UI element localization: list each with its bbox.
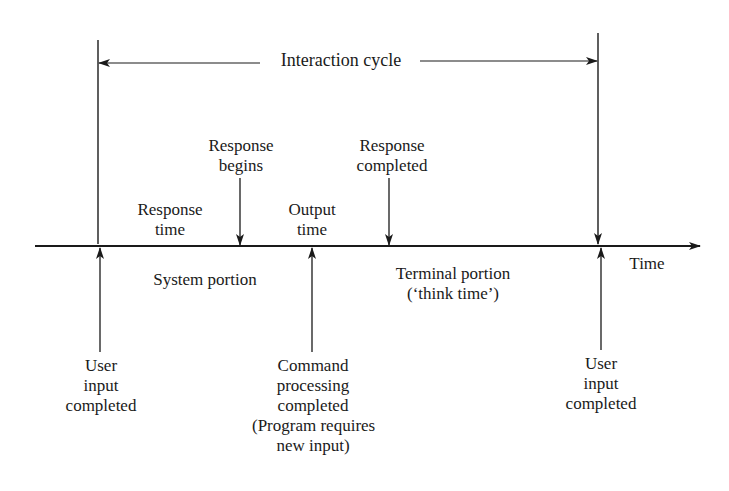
- response-begins-label: Response begins: [200, 136, 282, 176]
- user-input-end-line-2: input: [555, 374, 647, 394]
- command-processing-completed-label: Command processing completed (Program re…: [252, 356, 374, 456]
- system-portion-label: System portion: [130, 270, 280, 290]
- system-portion-text: System portion: [130, 270, 280, 290]
- response-time-label: Response time: [125, 200, 215, 240]
- response-time-line-1: Response: [125, 200, 215, 220]
- output-time-line-1: Output: [272, 200, 352, 220]
- interaction-cycle-label: Interaction cycle: [262, 50, 420, 70]
- user-input-start-line-3: completed: [55, 396, 147, 416]
- terminal-portion-line-2: (‘think time’): [378, 284, 528, 304]
- user-input-start-line-2: input: [55, 376, 147, 396]
- response-time-line-2: time: [125, 220, 215, 240]
- user-input-start-line-1: User: [55, 356, 147, 376]
- user-input-completed-end-label: User input completed: [555, 354, 647, 414]
- user-input-completed-start-label: User input completed: [55, 356, 147, 416]
- command-processing-line-2: processing: [252, 376, 374, 396]
- command-processing-line-1: Command: [252, 356, 374, 376]
- response-completed-line-2: completed: [348, 156, 436, 176]
- output-time-line-2: time: [272, 220, 352, 240]
- interaction-cycle-text: Interaction cycle: [264, 50, 418, 70]
- time-axis-label: Time: [622, 254, 672, 274]
- user-input-end-line-1: User: [555, 354, 647, 374]
- command-processing-line-4: (Program requires: [252, 416, 374, 436]
- command-processing-line-3: completed: [252, 396, 374, 416]
- terminal-portion-line-1: Terminal portion: [378, 264, 528, 284]
- user-input-end-line-3: completed: [555, 394, 647, 414]
- command-processing-line-5: new input): [252, 436, 374, 456]
- response-completed-line-1: Response: [348, 136, 436, 156]
- response-completed-label: Response completed: [348, 136, 436, 176]
- terminal-portion-label: Terminal portion (‘think time’): [378, 264, 528, 304]
- output-time-label: Output time: [272, 200, 352, 240]
- time-axis-text: Time: [622, 254, 672, 274]
- response-begins-line-1: Response: [200, 136, 282, 156]
- response-begins-line-2: begins: [200, 156, 282, 176]
